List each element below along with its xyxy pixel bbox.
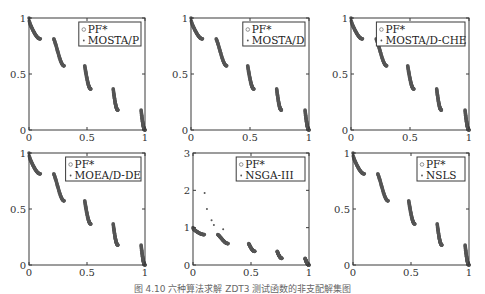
x-tick-label: 0.5 bbox=[403, 267, 419, 278]
x-tick-label: 0.5 bbox=[242, 132, 258, 143]
legend: PF*MOSTA/D bbox=[243, 22, 305, 46]
x-tick-label: 1 bbox=[466, 132, 472, 143]
x-tick-label: 0 bbox=[188, 132, 194, 143]
y-tick-label: 1 bbox=[20, 148, 26, 159]
y-tick-label: 1 bbox=[342, 13, 348, 24]
x-tick-label: 1 bbox=[306, 267, 312, 278]
outlier-point bbox=[206, 208, 208, 210]
legend-label-algorithm: MOEA/D-DE bbox=[75, 169, 141, 181]
algorithm-marker-icon bbox=[240, 175, 242, 177]
x-tick-label: 0.5 bbox=[79, 132, 95, 143]
y-tick-label: 0 bbox=[342, 125, 348, 136]
subplot-1: 00.5100.51PF*MOSTA/P bbox=[10, 13, 148, 144]
y-tick-label: 0.5 bbox=[332, 69, 348, 80]
x-tick-label: 1 bbox=[142, 132, 148, 143]
y-tick-label: 0 bbox=[184, 260, 190, 271]
pareto-front-points bbox=[191, 226, 311, 267]
y-tick-label: 2 bbox=[184, 185, 190, 196]
legend-label-algorithm: MOSTA/P bbox=[88, 34, 139, 46]
outlier-point bbox=[204, 192, 206, 194]
y-tick-label: 3 bbox=[184, 148, 190, 159]
outlier-point bbox=[211, 219, 213, 221]
y-tick-label: 1 bbox=[344, 148, 350, 159]
algorithm-marker-icon bbox=[381, 40, 383, 42]
y-tick-label: 0.5 bbox=[10, 69, 26, 80]
y-tick-label: 0 bbox=[20, 260, 26, 271]
algorithm-marker-icon bbox=[70, 175, 72, 177]
x-tick-label: 0.5 bbox=[402, 132, 418, 143]
x-tick-label: 0 bbox=[190, 267, 196, 278]
subplot-4: 00.5100.51PF*MOEA/D-DE bbox=[10, 148, 148, 279]
subplot-2: 00.5100.51PF*MOSTA/D bbox=[172, 13, 312, 144]
x-tick-label: 0.5 bbox=[243, 267, 259, 278]
outlier-point bbox=[213, 224, 215, 226]
subplot-6: 00.5100.51PF*NSLS bbox=[334, 148, 472, 279]
legend-label-algorithm: MOSTA/D bbox=[252, 34, 305, 46]
legend: PF*MOSTA/P bbox=[79, 22, 141, 46]
x-tick-label: 0 bbox=[350, 267, 356, 278]
y-tick-label: 1 bbox=[184, 222, 190, 233]
figure-caption: 图 4.10 六种算法求解 ZDT3 测试函数的非支配解集图 bbox=[0, 282, 485, 294]
x-tick-label: 0 bbox=[26, 267, 32, 278]
x-tick-label: 0 bbox=[348, 132, 354, 143]
legend: PF*MOSTA/D-CHE bbox=[376, 22, 466, 46]
subplot-5: 00.510123PF*NSGA-III bbox=[184, 148, 313, 279]
y-tick-label: 0 bbox=[20, 125, 26, 136]
algorithm-marker-icon bbox=[83, 40, 85, 42]
y-tick-label: 0.5 bbox=[172, 69, 188, 80]
x-tick-label: 0 bbox=[26, 132, 32, 143]
algorithm-marker-icon bbox=[247, 40, 249, 42]
x-tick-label: 0.5 bbox=[79, 267, 95, 278]
legend-label-algorithm: NSGA-III bbox=[245, 169, 293, 181]
y-tick-label: 1 bbox=[20, 13, 26, 24]
legend: PF*NSGA-III bbox=[236, 157, 305, 181]
algorithm-marker-icon bbox=[421, 175, 423, 177]
outlier-point bbox=[222, 228, 224, 230]
subplot-3: 00.5100.51PF*MOSTA/D-CHE bbox=[332, 13, 472, 144]
figure: 00.5100.51PF*MOSTA/P00.5100.51PF*MOSTA/D… bbox=[0, 0, 485, 294]
x-tick-label: 1 bbox=[466, 267, 472, 278]
legend-label-algorithm: MOSTA/D-CHE bbox=[385, 34, 466, 46]
legend: PF*NSLS bbox=[417, 157, 465, 181]
x-tick-label: 1 bbox=[306, 132, 312, 143]
x-tick-label: 1 bbox=[142, 267, 148, 278]
y-tick-label: 0.5 bbox=[10, 204, 26, 215]
y-tick-label: 0.5 bbox=[334, 204, 350, 215]
legend-label-algorithm: NSLS bbox=[426, 169, 457, 181]
y-tick-label: 0 bbox=[344, 260, 350, 271]
y-tick-label: 1 bbox=[182, 13, 188, 24]
y-tick-label: 0 bbox=[182, 125, 188, 136]
legend: PF*MOEA/D-DE bbox=[66, 157, 141, 181]
